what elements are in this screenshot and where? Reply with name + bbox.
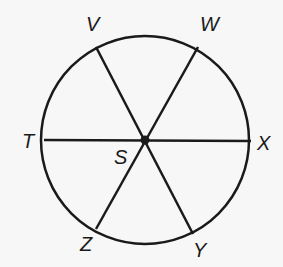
label-s: S: [114, 147, 127, 167]
label-t: T: [22, 131, 34, 151]
label-z: Z: [80, 234, 92, 254]
label-v: V: [86, 14, 99, 34]
diagram-canvas: [0, 0, 283, 267]
circle-diagram: V W T X Z Y S: [0, 0, 283, 267]
center-point: [141, 136, 150, 145]
label-y: Y: [193, 240, 206, 260]
label-x: X: [257, 133, 270, 153]
label-w: W: [200, 14, 219, 34]
